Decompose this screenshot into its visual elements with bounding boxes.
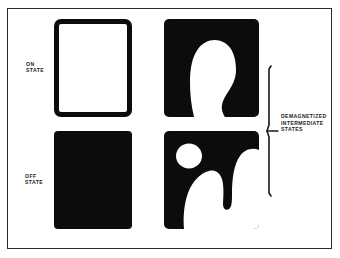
intermediate-top-domain-shape <box>164 19 259 117</box>
intermediate-states-label: DEMAGNETIZED INTERMEDIATE STATES <box>281 113 337 133</box>
circular-domain <box>176 144 202 169</box>
intermediate-states-bracket <box>266 65 280 197</box>
magnetic-domain-figure: ON STATE OFF STATE DEMAGNETIZED INTERMED… <box>0 0 340 258</box>
off-state-label: OFF STATE <box>25 173 43 186</box>
on-state-panel <box>54 19 132 117</box>
intermediate-bottom-panel <box>164 131 259 229</box>
intermediate-top-panel <box>164 19 259 117</box>
off-state-panel <box>54 131 132 229</box>
on-state-label: ON STATE <box>26 61 44 74</box>
intermediate-bottom-domain-shape <box>164 131 259 229</box>
